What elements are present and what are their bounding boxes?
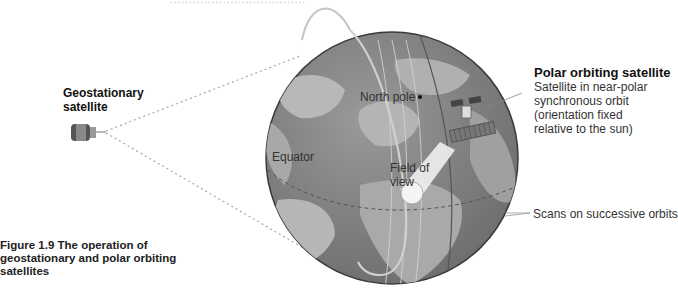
figure-caption: Figure 1.9 The operation of geostationar… <box>0 239 220 278</box>
scans-label: Scans on successive orbits <box>533 207 678 221</box>
north-pole-marker <box>418 95 422 99</box>
field-of-view-line-2: view <box>390 175 429 189</box>
geostationary-label-line-1: Geostationary <box>63 86 144 100</box>
polar-satellite-title: Polar orbiting satellite <box>534 66 671 80</box>
geostationary-label-line-2: satellite <box>63 100 144 114</box>
satellite-drum-icon <box>71 124 106 141</box>
field-of-view-line-1: Field of <box>390 161 429 175</box>
polar-satellite-label: Polar orbiting satellite Satellite in ne… <box>534 66 671 136</box>
polar-desc-line-4: relative to the sun) <box>534 122 671 136</box>
scans-leader-lines <box>505 213 530 216</box>
caption-line-1: Figure 1.9 The operation of <box>0 239 220 252</box>
field-of-view-label: Field of view <box>390 161 429 189</box>
cut-off-text: .................................... <box>170 0 306 5</box>
geostationary-label: Geostationary satellite <box>63 86 144 114</box>
caption-line-2: geostationary and polar orbiting <box>0 252 220 265</box>
caption-line-3: satellites <box>0 265 220 278</box>
polar-desc-line-3: (orientation fixed <box>534 108 671 122</box>
north-pole-label: North pole <box>360 90 415 104</box>
equator-label: Equator <box>272 150 314 164</box>
polar-orbit-ring-top <box>302 9 350 40</box>
polar-desc-line-1: Satellite in near-polar <box>534 80 671 94</box>
polar-desc-line-2: synchronous orbit <box>534 94 671 108</box>
